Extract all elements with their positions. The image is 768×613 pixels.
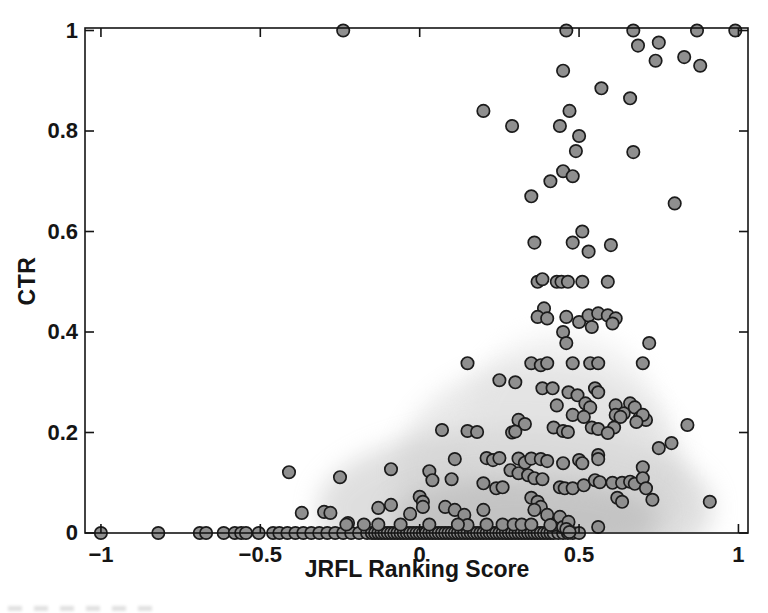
y-tick-label-5: 1 [66, 18, 78, 44]
y-tick-label-1: 0.2 [47, 420, 78, 446]
x-axis-label: JRFL Ranking Score [305, 556, 530, 583]
scan-artifact [8, 606, 158, 611]
y-axis-label: CTR [14, 257, 41, 306]
scatter-plot-figure: 00.20.40.60.81−1−0.500.51 CTR JRFL Ranki… [0, 0, 768, 613]
y-tick-label-0: 0 [66, 520, 78, 546]
y-tick-label-3: 0.6 [47, 219, 78, 245]
x-tick-label-0: −1 [88, 542, 113, 568]
y-tick-label-4: 0.8 [47, 118, 78, 144]
x-tick-label-4: 1 [732, 542, 744, 568]
x-tick-label-1: −0.5 [239, 542, 282, 568]
y-tick-label-2: 0.4 [47, 319, 78, 345]
x-tick-label-3: 0.5 [564, 542, 595, 568]
plot-canvas [0, 0, 768, 613]
